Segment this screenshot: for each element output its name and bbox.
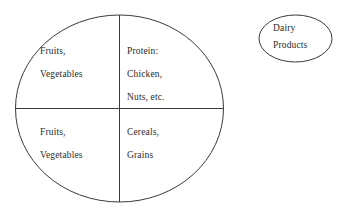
lower-left-quadrant-label: Fruits, Vegetables — [40, 121, 83, 167]
dairy-group-label: Dairy Products — [273, 20, 307, 54]
lower-right-quadrant-label: Cereals, Grains — [127, 121, 159, 167]
lower-left-line-1: Fruits, — [40, 121, 83, 144]
upper-right-quadrant-label: Protein: Chicken, Nuts, etc. — [127, 40, 165, 109]
upper-right-line-1: Protein: — [127, 40, 165, 63]
upper-left-line-2: Vegetables — [40, 63, 83, 86]
upper-right-line-3: Nuts, etc. — [127, 86, 165, 109]
dairy-line-2: Products — [273, 37, 307, 54]
diagram-canvas: Fruits, Vegetables Protein: Chicken, Nut… — [0, 0, 353, 215]
dairy-line-1: Dairy — [273, 20, 307, 37]
lower-right-line-1: Cereals, — [127, 121, 159, 144]
upper-right-line-2: Chicken, — [127, 63, 165, 86]
upper-left-quadrant-label: Fruits, Vegetables — [40, 40, 83, 86]
lower-left-line-2: Vegetables — [40, 144, 83, 167]
upper-left-line-1: Fruits, — [40, 40, 83, 63]
lower-right-line-2: Grains — [127, 144, 159, 167]
